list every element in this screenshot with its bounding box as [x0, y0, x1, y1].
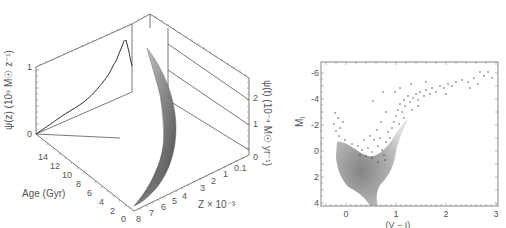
- figure: ψ(z) (10⁹ M☉ z⁻¹) 1 0 ψ(t) (10⁻⁴ M☉ yr⁻¹…: [0, 0, 506, 228]
- svg-text:8: 8: [76, 179, 81, 189]
- svg-text:14: 14: [38, 152, 48, 162]
- svg-text:0.1: 0.1: [234, 163, 247, 173]
- svg-text:7: 7: [149, 208, 154, 218]
- cmd-density-region: [336, 118, 408, 206]
- ribbon-shadow: [134, 95, 164, 206]
- cmd-x-ticks: 0 1 2 3: [343, 209, 498, 219]
- z-right-tick-2: 2: [253, 93, 258, 103]
- right-cmd-panel: -6 -4 -2 0 2 4 0 1 2 3 (V − I) MI: [294, 62, 499, 228]
- svg-text:8: 8: [136, 214, 141, 224]
- svg-text:6: 6: [161, 202, 166, 212]
- svg-text:3: 3: [200, 183, 205, 193]
- svg-text:2: 2: [110, 206, 115, 216]
- back-wall-left: [36, 14, 150, 134]
- svg-text:0: 0: [314, 146, 319, 156]
- cmd-x-axis-label: (V − I): [386, 220, 411, 228]
- svg-text:1: 1: [393, 209, 398, 219]
- svg-text:2: 2: [443, 209, 448, 219]
- svg-text:0: 0: [121, 214, 126, 224]
- z-right-tick-0: 0: [253, 152, 258, 162]
- svg-text:1: 1: [223, 169, 228, 179]
- left-3d-panel: ψ(z) (10⁹ M☉ z⁻¹) 1 0 ψ(t) (10⁻⁴ M☉ yr⁻¹…: [3, 14, 273, 224]
- z-right-axis-label: ψ(t) (10⁻⁴ M☉ yr⁻¹): [262, 80, 273, 166]
- z-left-tick-1: 1: [27, 62, 32, 72]
- metallicity-axis-label: Z × 10⁻³: [198, 199, 236, 210]
- svg-text:-2: -2: [311, 120, 319, 130]
- svg-text:2: 2: [211, 176, 216, 186]
- metallicity-ticks: 8 7 6 5 4 3 2 1 0.1: [136, 163, 247, 224]
- svg-text:2: 2: [314, 172, 319, 182]
- svg-text:4: 4: [99, 197, 104, 207]
- z-left-axis-label: ψ(z) (10⁹ M☉ z⁻¹): [3, 50, 14, 130]
- svg-text:0: 0: [343, 209, 348, 219]
- z-right-tick-1: 1: [253, 119, 258, 129]
- svg-text:-6: -6: [311, 68, 319, 78]
- age-axis-label: Age (Gyr): [22, 188, 65, 199]
- cmd-y-axis-label: MI: [294, 117, 306, 127]
- svg-text:3: 3: [493, 209, 498, 219]
- svg-text:5: 5: [172, 196, 177, 206]
- sfh-curve: [36, 40, 132, 134]
- svg-text:10: 10: [62, 170, 72, 180]
- cmd-scatter-points: [333, 71, 492, 162]
- cmd-y-ticks: -6 -4 -2 0 2 4: [311, 68, 319, 208]
- svg-text:6: 6: [87, 188, 92, 198]
- svg-text:12: 12: [50, 161, 60, 171]
- z-left-tick-0: 0: [27, 129, 32, 139]
- sfh-ribbon-surface: [134, 48, 176, 206]
- svg-text:-4: -4: [311, 94, 319, 104]
- svg-text:4: 4: [182, 191, 187, 201]
- svg-text:4: 4: [314, 198, 319, 208]
